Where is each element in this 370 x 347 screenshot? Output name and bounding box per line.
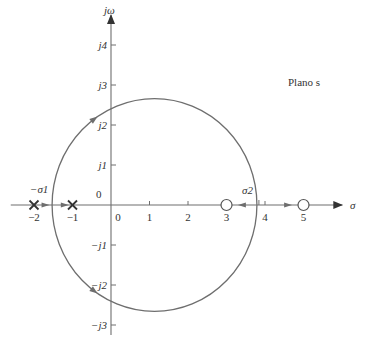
imag-tick-label: j4 <box>96 39 107 51</box>
origin-label: 0 <box>96 188 102 200</box>
real-tick-label: 2 <box>185 211 191 223</box>
real-tick-label: 1 <box>147 211 153 223</box>
real-arrow-break-in <box>238 203 246 208</box>
real-tick-label: 0 <box>115 211 121 223</box>
real-tick-label: 3 <box>224 211 230 223</box>
breakaway-label: −σ1 <box>30 183 48 195</box>
imag-tick-label: −j3 <box>91 319 107 331</box>
real-arrow-left-segment <box>42 203 50 208</box>
real-arrow-right-segment <box>284 203 292 208</box>
root-locus-diagram: Plano s jω σ 0 −σ1 σ2 −2−1012345j4j3j2j1… <box>0 0 370 347</box>
zero-marker <box>298 200 309 211</box>
imag-axis-label: jω <box>102 4 115 16</box>
zero-marker <box>221 200 232 211</box>
real-axis-label: σ <box>350 199 356 211</box>
imag-tick-label: j3 <box>96 79 107 91</box>
imag-tick-label: j2 <box>96 119 107 131</box>
plane-label: Plano s <box>288 76 320 88</box>
real-tick-label: 4 <box>262 211 268 223</box>
real-tick-label: 5 <box>301 211 307 223</box>
imag-tick-label: −j2 <box>91 279 107 291</box>
real-arrow-left-segment <box>61 203 69 208</box>
imag-tick-label: j1 <box>96 159 107 171</box>
real-tick-label: −1 <box>67 211 79 223</box>
imag-tick-label: −j1 <box>91 239 107 251</box>
real-tick-label: −2 <box>28 211 40 223</box>
break-in-label: σ2 <box>242 184 253 196</box>
